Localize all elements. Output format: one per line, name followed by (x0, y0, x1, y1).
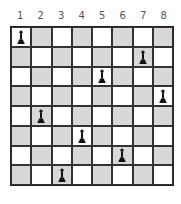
board-square[interactable] (31, 27, 51, 47)
column-label: 5 (92, 10, 113, 22)
board-square[interactable] (72, 126, 92, 146)
board-square[interactable] (52, 27, 72, 47)
board-square[interactable] (112, 146, 132, 166)
column-label: 8 (154, 10, 175, 22)
pawn-icon[interactable] (118, 148, 126, 162)
board-square[interactable] (133, 67, 153, 87)
board-square[interactable] (92, 106, 112, 126)
board-square[interactable] (52, 106, 72, 126)
board-square[interactable] (153, 27, 173, 47)
board-square[interactable] (11, 67, 31, 87)
board-square[interactable] (11, 86, 31, 106)
board-square[interactable] (153, 146, 173, 166)
board-square[interactable] (133, 126, 153, 146)
board-square[interactable] (52, 146, 72, 166)
board-square[interactable] (72, 27, 92, 47)
board-square[interactable] (92, 47, 112, 67)
board-square[interactable] (31, 146, 51, 166)
column-label: 4 (72, 10, 93, 22)
board-square[interactable] (92, 86, 112, 106)
board-square[interactable] (31, 106, 51, 126)
pawn-icon[interactable] (98, 69, 106, 83)
board-square[interactable] (133, 106, 153, 126)
board-square[interactable] (92, 165, 112, 185)
column-labels: 12345678 (10, 10, 174, 22)
board-square[interactable] (52, 47, 72, 67)
board-square[interactable] (72, 165, 92, 185)
board-square[interactable] (72, 146, 92, 166)
pawn-icon[interactable] (58, 168, 66, 182)
board-square[interactable] (31, 47, 51, 67)
pawn-icon[interactable] (17, 30, 25, 44)
board-square[interactable] (112, 86, 132, 106)
board-square[interactable] (52, 67, 72, 87)
board-square[interactable] (52, 165, 72, 185)
board-square[interactable] (133, 47, 153, 67)
board-square[interactable] (92, 146, 112, 166)
column-label: 6 (113, 10, 134, 22)
board-square[interactable] (153, 47, 173, 67)
board-square[interactable] (153, 126, 173, 146)
board-square[interactable] (112, 47, 132, 67)
board-square[interactable] (92, 67, 112, 87)
pawn-icon[interactable] (139, 50, 147, 64)
board-square[interactable] (153, 165, 173, 185)
board-square[interactable] (52, 86, 72, 106)
column-label: 1 (10, 10, 31, 22)
pawn-icon[interactable] (159, 89, 167, 103)
board-square[interactable] (133, 165, 153, 185)
board-square[interactable] (112, 165, 132, 185)
board-square[interactable] (133, 86, 153, 106)
board-square[interactable] (11, 165, 31, 185)
board-square[interactable] (112, 106, 132, 126)
board-square[interactable] (72, 47, 92, 67)
board-square[interactable] (92, 27, 112, 47)
board-square[interactable] (11, 126, 31, 146)
board-square[interactable] (31, 126, 51, 146)
board-square[interactable] (133, 146, 153, 166)
board-square[interactable] (11, 106, 31, 126)
chess-board (10, 26, 174, 186)
pawn-icon[interactable] (37, 109, 45, 123)
board-square[interactable] (31, 86, 51, 106)
board-square[interactable] (112, 126, 132, 146)
board-square[interactable] (153, 67, 173, 87)
board-square[interactable] (92, 126, 112, 146)
board-square[interactable] (11, 47, 31, 67)
column-label: 7 (133, 10, 154, 22)
pawn-icon[interactable] (78, 129, 86, 143)
board-square[interactable] (133, 27, 153, 47)
board-square[interactable] (153, 86, 173, 106)
board-square[interactable] (72, 67, 92, 87)
board-square[interactable] (112, 27, 132, 47)
board-square[interactable] (112, 67, 132, 87)
board-square[interactable] (72, 106, 92, 126)
column-label: 2 (31, 10, 52, 22)
board-square[interactable] (31, 165, 51, 185)
column-label: 3 (51, 10, 72, 22)
board-square[interactable] (52, 126, 72, 146)
board-square[interactable] (72, 86, 92, 106)
board-square[interactable] (153, 106, 173, 126)
board-square[interactable] (31, 67, 51, 87)
board-square[interactable] (11, 27, 31, 47)
board-square[interactable] (11, 146, 31, 166)
